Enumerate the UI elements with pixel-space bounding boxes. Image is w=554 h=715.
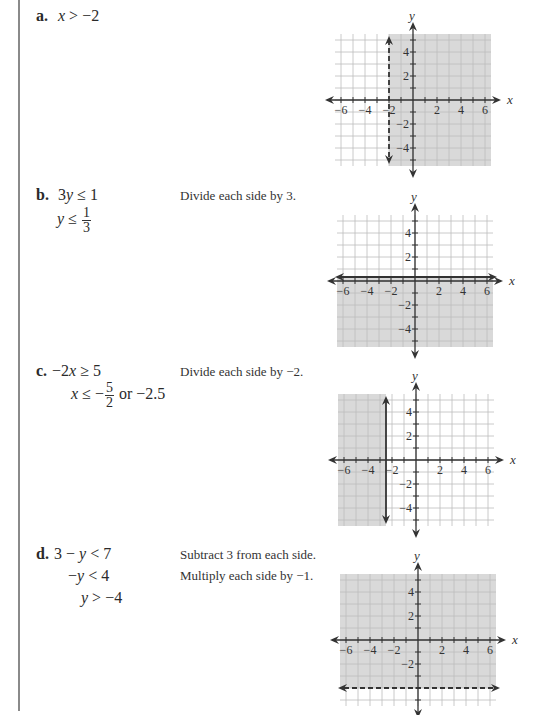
x-tick-label: −6 [340,643,353,657]
y-tick-label: 4 [408,585,414,599]
y-axis-label: y [412,548,420,563]
x-tick-label: 2 [439,643,445,657]
graph-d: −6−4−224642−2xy [0,0,554,715]
x-tick-label: 6 [487,643,493,657]
x-tick-label: 4 [463,643,469,657]
x-tick-label: −4 [364,643,377,657]
x-tick-label: −2 [388,643,401,657]
y-tick-label: 2 [408,609,414,623]
x-axis-label: x [511,632,518,647]
y-tick-label: −2 [401,657,414,671]
